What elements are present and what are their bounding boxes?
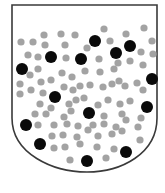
grey-dot — [50, 121, 57, 128]
grey-dot — [86, 81, 93, 88]
grey-dot — [16, 90, 23, 97]
grey-dot — [59, 131, 66, 138]
grey-dot — [108, 130, 115, 137]
black-dot — [124, 40, 136, 52]
grey-dot — [72, 96, 79, 103]
black-dot — [81, 155, 93, 167]
grey-dot — [76, 140, 83, 147]
grey-dot — [73, 133, 80, 140]
grey-dot — [93, 143, 100, 150]
grey-dot — [100, 25, 107, 32]
black-dot — [20, 119, 32, 131]
grey-dot — [110, 65, 117, 72]
grey-dot — [84, 126, 91, 133]
grey-dot — [136, 136, 143, 143]
grey-dot — [16, 80, 23, 87]
grey-dot — [42, 110, 49, 117]
grey-dot — [24, 51, 31, 58]
grey-dot — [34, 65, 41, 72]
grey-dot — [140, 24, 147, 31]
grey-dot — [137, 114, 144, 121]
grey-dot — [50, 144, 57, 151]
grey-dot — [80, 94, 87, 101]
grey-dot — [95, 55, 102, 62]
black-dot — [45, 51, 57, 63]
grey-dot — [133, 79, 140, 86]
grey-dot — [39, 89, 46, 96]
grey-dot — [47, 76, 54, 83]
black-dot — [34, 138, 46, 150]
grey-dot — [96, 68, 103, 75]
grey-dot — [99, 83, 106, 90]
grey-dot — [57, 30, 64, 37]
grey-dot — [67, 107, 74, 114]
grey-dot — [148, 37, 155, 44]
grey-dot — [71, 31, 78, 38]
grey-dot — [137, 48, 144, 55]
grey-dot — [126, 57, 133, 64]
grey-dot — [114, 59, 121, 66]
grey-dot — [112, 123, 119, 130]
black-dot — [49, 91, 61, 103]
grey-dot — [62, 54, 69, 61]
grey-dot — [122, 30, 129, 37]
grey-dot — [63, 120, 70, 127]
grey-dot — [60, 83, 67, 90]
grey-dot — [60, 113, 67, 120]
grey-dot — [61, 41, 68, 48]
grey-dot — [110, 145, 117, 152]
black-dot — [16, 63, 28, 75]
black-dot — [146, 73, 158, 85]
grey-dot — [58, 69, 65, 76]
grey-dot — [76, 82, 83, 89]
grey-dot — [40, 31, 47, 38]
grey-dot — [81, 67, 88, 74]
grey-dot — [121, 82, 128, 89]
grey-dot — [100, 112, 107, 119]
grey-dot — [68, 73, 75, 80]
grey-dot — [29, 38, 36, 45]
grey-dot — [61, 143, 68, 150]
grey-dot — [94, 132, 101, 139]
grey-dot — [34, 121, 41, 128]
grey-dot — [69, 86, 76, 93]
grey-dot — [118, 127, 125, 134]
grey-dot — [27, 86, 34, 93]
grey-dot — [26, 71, 33, 78]
grey-dot — [17, 38, 24, 45]
grey-dot — [102, 154, 109, 161]
black-dot — [141, 101, 153, 113]
grey-dot — [41, 41, 48, 48]
grey-dot — [31, 110, 38, 117]
shield-dot-pattern — [0, 0, 165, 193]
grey-dot — [106, 37, 113, 44]
grey-dot — [74, 122, 81, 129]
grey-dot — [139, 86, 146, 93]
grey-dot — [108, 80, 115, 87]
grey-dot — [149, 50, 156, 57]
grey-dot — [66, 156, 73, 163]
grey-dot — [115, 77, 122, 84]
grey-dot — [83, 44, 90, 51]
black-dot — [89, 35, 101, 47]
grey-dot — [122, 116, 129, 123]
grey-dot — [100, 120, 107, 127]
grey-dot — [47, 104, 54, 111]
grey-dot — [48, 132, 55, 139]
grey-dot — [65, 100, 72, 107]
grey-dot — [104, 96, 111, 103]
grey-dot — [34, 53, 41, 60]
grey-dot — [37, 78, 44, 85]
black-dot — [83, 107, 95, 119]
grey-dot — [116, 100, 123, 107]
shield-diagram — [0, 0, 165, 193]
grey-dot — [134, 123, 141, 130]
black-dot — [75, 53, 87, 65]
grey-dot — [118, 110, 125, 117]
grey-dot — [36, 100, 43, 107]
black-dot — [120, 146, 132, 158]
grey-dot — [139, 61, 146, 68]
grey-dot — [94, 101, 101, 108]
grey-dot — [126, 97, 133, 104]
black-dot — [110, 47, 122, 59]
